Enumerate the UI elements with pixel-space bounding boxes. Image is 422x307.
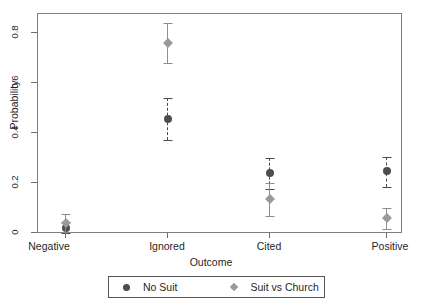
errorbar-cap-upper	[164, 23, 173, 24]
y-tick-label-0: 0	[10, 217, 20, 247]
x-tick-mark	[65, 233, 66, 238]
x-tick-label-cited: Cited	[257, 240, 282, 252]
errorbar-cap-lower	[62, 232, 71, 233]
x-tick-label-ignored: Ignored	[149, 240, 185, 252]
data-point-suit-vs-church-cited	[265, 194, 275, 204]
errorbar-cap-upper	[164, 98, 173, 99]
errorbar-cap-lower	[383, 229, 392, 230]
errorbar-cap-upper	[383, 208, 392, 209]
legend-entry-no-suit: No Suit	[109, 277, 217, 297]
errorbar-cap-upper	[383, 157, 392, 158]
errorbar-cap-lower	[62, 233, 71, 234]
errorbar-cap-upper	[266, 158, 275, 159]
y-tick-label-0.8: 0.8	[10, 17, 20, 47]
y-tick-label-0.2: 0.2	[10, 167, 20, 197]
diamond-marker-icon	[217, 284, 251, 290]
data-point-no-suit-ignored	[164, 115, 172, 123]
x-tick-mark	[167, 233, 168, 238]
y-axis-title: Probability	[8, 63, 20, 147]
x-tick-mark	[269, 233, 270, 238]
errorbar-cap-upper	[266, 183, 275, 184]
plot-area	[37, 13, 402, 233]
x-tick-label-positive: Positive	[372, 240, 409, 252]
data-point-no-suit-cited	[266, 169, 274, 177]
legend-entry-suit-vs-church: Suit vs Church	[217, 277, 325, 297]
legend-label-suit-vs-church: Suit vs Church	[251, 281, 319, 293]
circle-marker-icon	[109, 284, 143, 291]
legend-label-no-suit: No Suit	[143, 281, 177, 293]
errorbar-cap-lower	[164, 63, 173, 64]
figure-container: 0.8 0.6 0.4 0.2 0 Probability	[0, 0, 422, 307]
data-point-no-suit-positive	[383, 167, 391, 175]
errorbar-cap-upper	[62, 214, 71, 215]
errorbar-cap-lower	[383, 187, 392, 188]
errorbar-cap-lower	[266, 216, 275, 217]
data-point-suit-vs-church-ignored	[163, 38, 173, 48]
chart-legend: No Suit Suit vs Church	[108, 276, 325, 298]
errorbar-cap-lower	[164, 140, 173, 141]
x-tick-mark	[386, 233, 387, 238]
x-axis-title: Outcome	[0, 256, 422, 268]
data-point-suit-vs-church-positive	[382, 213, 392, 223]
x-tick-label-negative: Negative	[28, 240, 69, 252]
